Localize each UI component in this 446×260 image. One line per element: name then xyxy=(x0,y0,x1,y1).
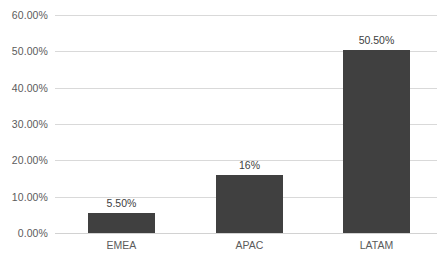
y-tick-label: 20.00% xyxy=(12,154,48,166)
bar-value-label-emea: 5.50% xyxy=(107,197,137,209)
y-tick-label: 10.00% xyxy=(12,191,48,203)
y-tick-label: 40.00% xyxy=(12,82,48,94)
y-tick-label: 0.00% xyxy=(18,227,48,239)
y-tick-label: 60.00% xyxy=(12,9,48,21)
x-tick-label-apac: APAC xyxy=(236,239,264,251)
bar-emea[interactable] xyxy=(88,213,155,233)
bar-value-label-latam: 50.50% xyxy=(359,34,395,46)
bar-apac[interactable] xyxy=(216,175,283,233)
plot-area: 5.50% 16% 50.50% xyxy=(55,15,437,233)
y-tick-label: 30.00% xyxy=(12,118,48,130)
bars-layer: 5.50% 16% 50.50% xyxy=(55,15,437,233)
x-axis: EMEA APAC LATAM xyxy=(55,236,437,260)
bar-value-label-apac: 16% xyxy=(239,159,260,171)
bar-chart: 60.00% 50.00% 40.00% 30.00% 20.00% 10.00… xyxy=(0,0,446,260)
y-axis: 60.00% 50.00% 40.00% 30.00% 20.00% 10.00… xyxy=(0,0,52,260)
y-tick-label: 50.00% xyxy=(12,45,48,57)
bar-latam[interactable] xyxy=(343,50,410,234)
x-tick-label-latam: LATAM xyxy=(360,239,393,251)
gridline-baseline xyxy=(55,233,437,234)
x-tick-label-emea: EMEA xyxy=(107,239,137,251)
